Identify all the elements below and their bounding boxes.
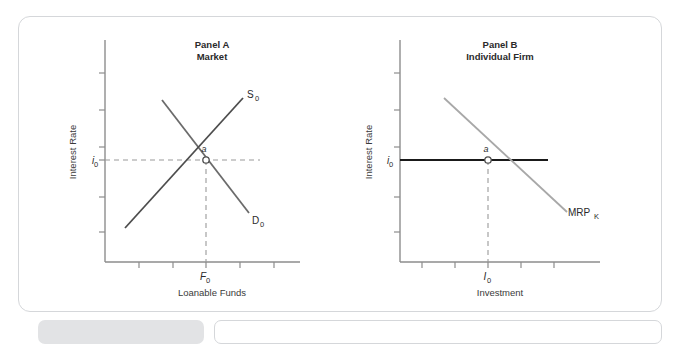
panel-a-y-tick-label-sub: 0: [94, 160, 98, 169]
panel-a-supply-label-sub: 0: [255, 94, 259, 103]
panel-b-x-tick-label-sub: 0: [487, 276, 491, 285]
panel-a-title-line1: Panel A: [195, 39, 230, 50]
panel-a-y-axis-label: Interest Rate: [67, 125, 78, 179]
panel-a-y-tick-label: i 0: [92, 155, 98, 169]
panel-a-demand-label-sub: 0: [260, 220, 264, 229]
panel-b-x-axis-label: Investment: [477, 287, 524, 298]
panel-b-y-ticks: [394, 73, 400, 232]
panel-b-x-ticks: [422, 262, 554, 268]
panel-b: Panel B Individual Firm Interest Rate In…: [363, 39, 600, 298]
panel-b-y-tick-label: i 0: [387, 155, 393, 169]
panel-a-x-tick-label: F 0: [200, 271, 210, 285]
panel-a: Panel A Market Interest Rate Loanable Fu…: [67, 39, 300, 298]
panel-a-equilibrium-point: [203, 157, 209, 163]
panel-a-supply-label-text: S: [247, 89, 254, 100]
panel-b-y-tick-label-sub: 0: [389, 160, 393, 169]
panel-a-x-tick-label-sub: 0: [206, 276, 210, 285]
panel-a-y-ticks: [99, 73, 105, 232]
panel-a-x-axis-label: Loanable Funds: [178, 287, 246, 298]
bottom-chip-filled[interactable]: [38, 320, 204, 344]
bottom-chip-outline[interactable]: [214, 320, 662, 344]
panel-b-mrpk-label-sub: K: [594, 212, 599, 221]
panel-a-point-a-label: a: [201, 144, 206, 154]
panel-b-point-a-label: a: [483, 144, 488, 154]
panel-b-x-tick-label: I 0: [484, 271, 491, 285]
panel-a-x-ticks: [139, 262, 274, 268]
panel-b-mrpk-curve: [444, 98, 567, 212]
panel-a-title-line2: Market: [197, 51, 228, 62]
panel-a-demand-label-text: D: [252, 215, 259, 226]
panel-b-title-line1: Panel B: [483, 39, 518, 50]
panel-b-equilibrium-point: [485, 157, 491, 163]
panel-b-mrpk-label-text: MRP: [568, 207, 591, 218]
panel-b-y-axis-label: Interest Rate: [363, 125, 374, 179]
panel-a-supply-label: S 0: [247, 89, 259, 103]
panel-a-supply-curve: [125, 98, 243, 228]
panel-b-title-line2: Individual Firm: [466, 51, 534, 62]
panel-b-mrpk-label: MRP K: [568, 207, 599, 221]
panel-a-demand-label: D 0: [252, 215, 264, 229]
